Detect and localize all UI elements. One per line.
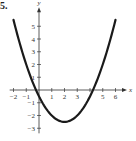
x-tick-label: 5 bbox=[101, 93, 105, 101]
x-tick-label: 3 bbox=[76, 93, 80, 101]
y-tick-label: −1 bbox=[28, 99, 36, 107]
x-tick-label: 6 bbox=[114, 93, 118, 101]
ticks: −2−11235654321−1−2−3 bbox=[10, 23, 118, 133]
parabola-chart: xy −2−11235654321−1−2−3 bbox=[0, 0, 136, 141]
x-axis-label: x bbox=[128, 86, 133, 94]
y-axis-arrow-icon bbox=[37, 7, 41, 12]
y-tick-label: 5 bbox=[32, 23, 36, 31]
y-tick-label: −2 bbox=[28, 112, 36, 120]
y-tick-label: 3 bbox=[32, 48, 36, 56]
x-axis-arrow-icon bbox=[122, 88, 127, 92]
y-tick-label: 2 bbox=[32, 61, 36, 69]
y-tick-label: −3 bbox=[28, 125, 36, 133]
x-tick-label: 2 bbox=[63, 93, 67, 101]
x-tick-label: −2 bbox=[10, 93, 18, 101]
y-tick-label: 4 bbox=[32, 36, 36, 44]
x-tick-label: 1 bbox=[50, 93, 54, 101]
y-axis-label: y bbox=[37, 0, 42, 7]
